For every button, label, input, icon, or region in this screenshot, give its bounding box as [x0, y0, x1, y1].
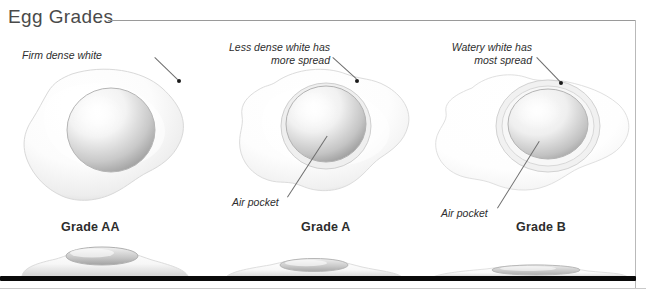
callout-watery-white-grade-b: Watery white has most spread: [402, 41, 532, 66]
callout-air-pocket-grade-a: Air pocket: [232, 196, 312, 209]
egg-top-view-grade-a: [222, 62, 422, 212]
figure-canvas: Egg Grades: [0, 0, 646, 295]
frame-right-border: [635, 20, 636, 288]
ground-baseline: [0, 276, 636, 281]
title-rule: [108, 20, 636, 21]
callout-air-pocket-grade-b: Air pocket: [441, 207, 521, 220]
callout-less-dense-white-grade-a: Less dense white has more spread: [190, 41, 330, 66]
egg-top-view-grade-aa: [12, 62, 197, 207]
grade-label-aa: Grade AA: [61, 220, 120, 234]
leader-dot-grade-aa-white: [177, 79, 181, 83]
leader-dot-grade-a-white: [355, 79, 359, 83]
egg-top-view-grade-b: [428, 62, 634, 212]
grade-label-b: Grade B: [516, 220, 566, 234]
page-title: Egg Grades: [8, 6, 113, 28]
bottom-rule: [0, 288, 646, 289]
callout-firm-dense-white-grade-aa: Firm dense white: [22, 49, 152, 62]
egg-side-view-grade-aa: [16, 243, 196, 279]
grade-label-a: Grade A: [301, 220, 351, 234]
leader-dot-grade-b-white: [559, 81, 563, 85]
